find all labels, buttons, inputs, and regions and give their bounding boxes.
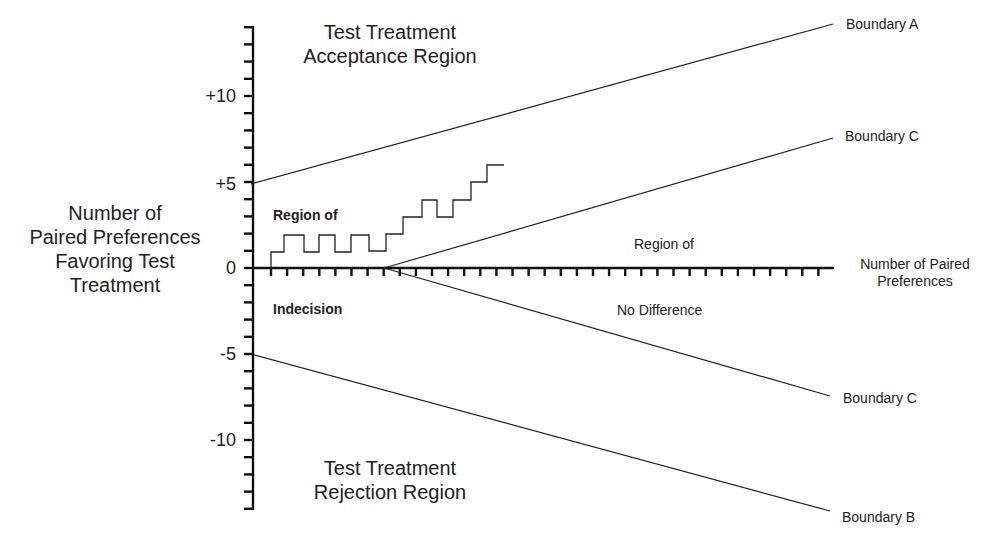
rejection-region-label: Test Treatment Rejection Region <box>290 456 490 504</box>
x-axis <box>253 268 834 276</box>
y-axis-label-line1: Number of <box>20 201 210 225</box>
y-tick-label-zero: 0 <box>176 258 236 278</box>
x-axis-label-line1: Number of Paired <box>840 256 990 273</box>
boundary-c-lower-line <box>384 268 830 396</box>
boundary-b-label: Boundary B <box>842 509 915 525</box>
no-difference-region-label-top: Region of <box>634 236 694 252</box>
y-axis-label-line2: Paired Preferences <box>20 225 210 249</box>
boundary-c-lower-label: Boundary C <box>843 390 917 406</box>
indecision-region-label-top: Region of <box>273 207 338 223</box>
y-axis <box>244 26 253 510</box>
y-tick-label-plus10: +10 <box>176 86 236 106</box>
boundary-c-upper-line <box>384 138 833 268</box>
boundary-c-upper-label: Boundary C <box>845 128 919 144</box>
acceptance-region-label: Test Treatment Acceptance Region <box>290 20 490 68</box>
y-tick-label-plus5: +5 <box>176 174 236 194</box>
rejection-label-line1: Test Treatment <box>290 456 490 480</box>
acceptance-label-line2: Acceptance Region <box>290 44 490 68</box>
boundary-a-label: Boundary A <box>846 16 918 32</box>
y-tick-label-minus10: -10 <box>176 430 236 450</box>
x-axis-label: Number of Paired Preferences <box>840 256 990 290</box>
indecision-region-label-bottom: Indecision <box>273 301 342 317</box>
no-difference-region-label-bottom: No Difference <box>617 302 702 318</box>
acceptance-label-line1: Test Treatment <box>290 20 490 44</box>
rejection-label-line2: Rejection Region <box>290 480 490 504</box>
x-axis-label-line2: Preferences <box>840 273 990 290</box>
y-axis-label: Number of Paired Preferences Favoring Te… <box>20 201 210 297</box>
y-tick-label-minus5: -5 <box>176 344 236 364</box>
